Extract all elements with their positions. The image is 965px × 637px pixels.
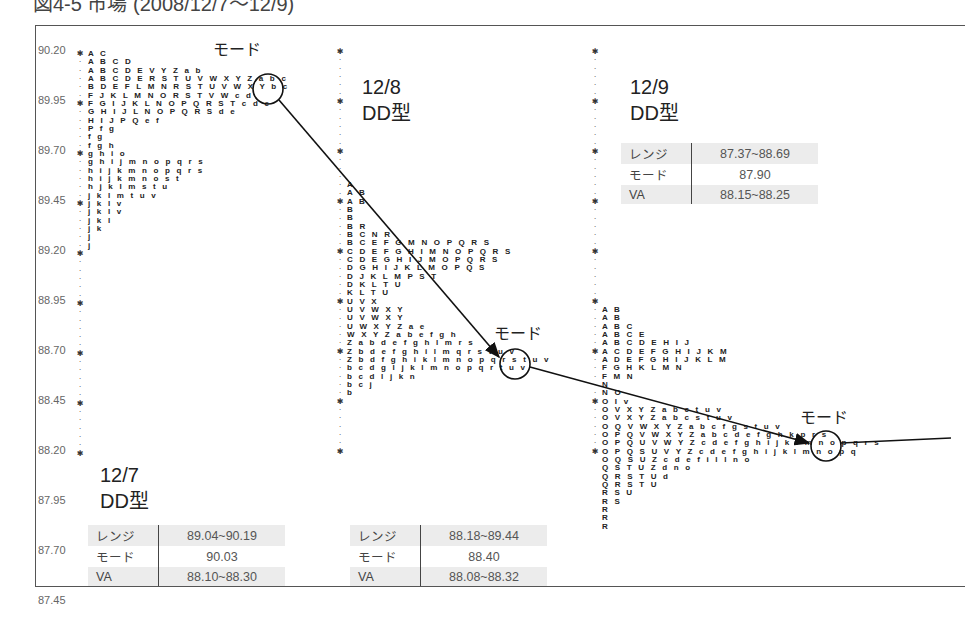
line-12-9-next [841,438,951,443]
arrow-12-7-to-12-8 [279,100,499,357]
mode-circle-12-7 [253,74,283,104]
mode-circle-12-9 [811,431,841,461]
arrow-12-8-to-12-9 [530,367,809,443]
mode-circle-12-8 [500,349,530,379]
